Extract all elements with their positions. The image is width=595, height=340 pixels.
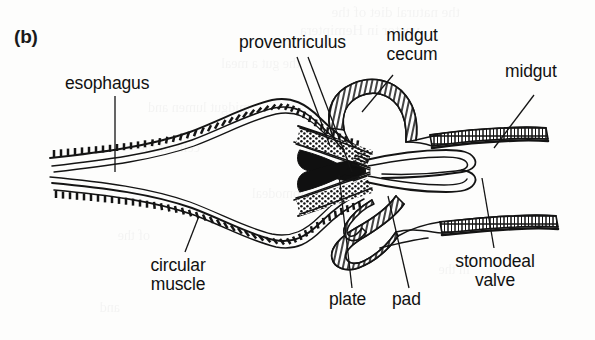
label-pad: pad [392,290,421,309]
label-plate: plate [329,290,366,309]
label-circular-muscle-line2: muscle [151,274,206,294]
label-stomodeal-valve-line1: stomodeal [455,251,534,271]
label-circular-muscle-line1: circular [150,255,205,275]
figure-panel-b: the natural diet of the vector in Hemipt… [0,0,595,340]
label-midgut-cecum: midgut cecum [366,26,458,64]
label-midgut-cecum-line2: cecum [387,44,438,64]
label-proventriculus: proventriculus [239,33,346,52]
label-midgut: midgut [505,62,557,81]
leader-circular-muscle [185,216,199,252]
label-esophagus: esophagus [65,74,149,93]
leader-stomodeal-valve [482,178,494,248]
label-stomodeal-valve: stomodeal valve [443,252,547,290]
panel-letter: (b) [14,26,38,48]
label-midgut-cecum-line1: midgut [386,25,438,45]
label-stomodeal-valve-line2: valve [475,270,515,290]
label-circular-muscle: circular muscle [126,256,230,294]
